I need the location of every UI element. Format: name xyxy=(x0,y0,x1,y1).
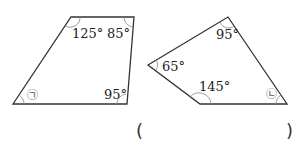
angle-label: 95° xyxy=(104,88,127,101)
angle-label: 145° xyxy=(199,80,230,93)
angle-arc xyxy=(156,60,158,70)
angle-label: 85° xyxy=(107,27,130,40)
answer-open-paren: ( xyxy=(136,122,143,140)
angle-arc xyxy=(19,95,24,104)
angle-label: 125° xyxy=(72,27,103,40)
answer-close-paren: ) xyxy=(286,122,293,140)
angle-label: 95° xyxy=(216,28,239,41)
angle-label: 65° xyxy=(162,60,185,73)
unknown-angle-label: ㉡ xyxy=(266,89,277,100)
answer-blank[interactable] xyxy=(150,120,280,142)
unknown-angle-label: ㉠ xyxy=(27,90,38,101)
